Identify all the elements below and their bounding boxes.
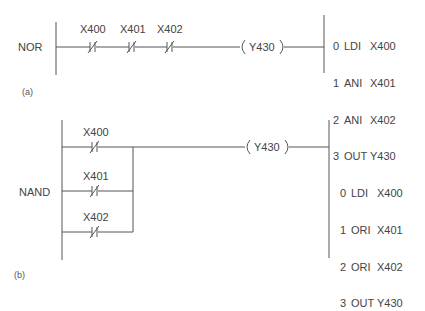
operand: X400 xyxy=(370,40,396,52)
coil-label: Y430 xyxy=(254,141,280,153)
step: 1 xyxy=(340,224,351,236)
instruction-list-b: 0LDIX400 1ORIX401 2ORIX402 3OUTY430 xyxy=(340,163,403,311)
instruction-row: 2ORIX402 xyxy=(340,261,403,273)
instruction-row: 3OUTY430 xyxy=(340,297,403,309)
step: 1 xyxy=(333,77,344,89)
contact-label: X402 xyxy=(83,211,109,223)
opcode: ORI xyxy=(351,224,377,236)
operand: X400 xyxy=(377,187,403,199)
operand: X401 xyxy=(370,77,396,89)
contact-label: X401 xyxy=(83,170,109,182)
operand: X401 xyxy=(377,224,403,236)
coil-label: Y430 xyxy=(249,41,275,53)
opcode: ANI xyxy=(344,77,370,89)
instruction-row: 3OUTY430 xyxy=(333,150,396,162)
opcode: LDI xyxy=(344,40,370,52)
contact-label: X401 xyxy=(120,23,146,35)
operand: X402 xyxy=(370,114,396,126)
opcode: ANI xyxy=(344,114,370,126)
instruction-row: 1ORIX401 xyxy=(340,224,403,236)
instruction-list-a: 0LDIX400 1ANIX401 2ANIX402 3OUTY430 xyxy=(333,16,396,175)
step: 3 xyxy=(333,150,344,162)
opcode: OUT xyxy=(351,297,377,309)
caption-b: (b) xyxy=(14,270,25,280)
step: 2 xyxy=(340,261,351,273)
step: 3 xyxy=(340,297,351,309)
opcode: OUT xyxy=(344,150,370,162)
operand: X402 xyxy=(377,261,403,273)
step: 0 xyxy=(340,187,351,199)
contact-label: X400 xyxy=(80,23,106,35)
instruction-row: 0LDIX400 xyxy=(333,40,396,52)
gate-label-a: NOR xyxy=(18,41,43,53)
caption-a: (a) xyxy=(22,87,33,97)
opcode: LDI xyxy=(351,187,377,199)
operand: Y430 xyxy=(377,297,403,309)
instruction-row: 0LDIX400 xyxy=(340,187,403,199)
opcode: ORI xyxy=(351,261,377,273)
instruction-row: 2ANIX402 xyxy=(333,114,396,126)
instruction-row: 1ANIX401 xyxy=(333,77,396,89)
step: 0 xyxy=(333,40,344,52)
gate-label-b: NAND xyxy=(19,186,50,198)
contact-label: X400 xyxy=(83,126,109,138)
contact-label: X402 xyxy=(157,23,183,35)
step: 2 xyxy=(333,114,344,126)
operand: Y430 xyxy=(370,150,396,162)
